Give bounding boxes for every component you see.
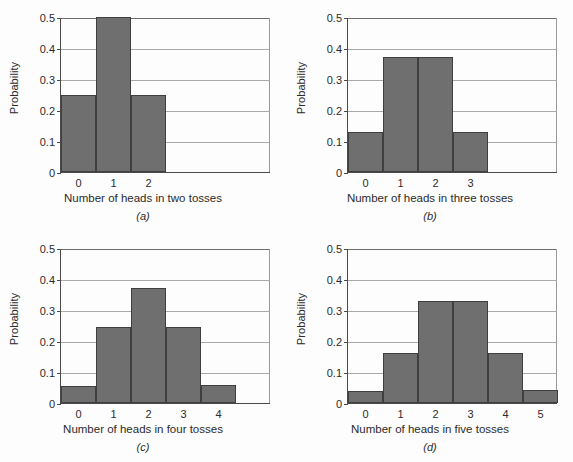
x-axis-label: Number of heads in five tosses	[287, 423, 573, 435]
bar-series	[348, 249, 557, 403]
y-axis-label-text: Probability	[8, 292, 20, 344]
panel-letter: (a)	[0, 210, 286, 222]
panel-letter: (c)	[0, 441, 286, 453]
bar	[96, 17, 131, 172]
bar-series	[61, 18, 270, 172]
bar	[348, 132, 383, 172]
y-tick-label: 0.4	[327, 274, 342, 286]
x-axis-label: Number of heads in three tosses	[287, 192, 573, 204]
bar	[131, 95, 166, 173]
x-tick-label: 5	[537, 408, 543, 420]
bar	[96, 327, 131, 403]
panel-c: Probability00.10.20.30.40.501234Number o…	[0, 231, 286, 462]
x-tick-label: 2	[145, 408, 151, 420]
y-tick-label: 0.3	[40, 305, 55, 317]
bar	[523, 390, 558, 403]
x-tick-label: 1	[110, 177, 116, 189]
plot-area: 00.10.20.30.40.501234	[60, 249, 270, 404]
y-tick-label: 0.4	[40, 43, 55, 55]
y-axis-label: Probability	[6, 231, 22, 406]
panel-a: Probability00.10.20.30.40.5012Number of …	[0, 0, 286, 231]
y-axis-label-text: Probability	[8, 61, 20, 113]
plot-area: 00.10.20.30.40.5012	[60, 18, 270, 173]
x-tick-label: 4	[502, 408, 508, 420]
y-tick-label: 0.5	[40, 12, 55, 24]
x-tick-label: 3	[467, 408, 473, 420]
y-tick-label: 0	[336, 167, 342, 179]
x-tick-label: 1	[397, 177, 403, 189]
y-tick-label: 0.1	[327, 136, 342, 148]
bar	[348, 391, 383, 403]
bar	[131, 288, 166, 403]
y-tick-label: 0.2	[40, 105, 55, 117]
binomial-histogram-figure: Probability00.10.20.30.40.5012Number of …	[0, 0, 573, 462]
x-tick-label: 1	[110, 408, 116, 420]
y-tick-label: 0.2	[40, 336, 55, 348]
x-tick-label: 3	[180, 408, 186, 420]
y-tick-label: 0.4	[327, 43, 342, 55]
bar	[61, 95, 96, 173]
x-tick-label: 1	[397, 408, 403, 420]
panel-d: Probability00.10.20.30.40.5012345Number …	[287, 231, 573, 462]
y-axis-label-text: Probability	[295, 61, 307, 113]
y-tick-label: 0.1	[40, 136, 55, 148]
bar	[383, 353, 418, 403]
bar-series	[348, 18, 557, 172]
bar	[166, 327, 201, 403]
y-tick-label: 0	[336, 398, 342, 410]
y-tick-label: 0.3	[40, 74, 55, 86]
x-tick-label: 0	[362, 177, 368, 189]
bar	[61, 386, 96, 403]
x-tick-label: 2	[432, 408, 438, 420]
plot-area: 00.10.20.30.40.5012345	[347, 249, 557, 404]
plot-area: 00.10.20.30.40.50123	[347, 18, 557, 173]
y-tick-label: 0.2	[327, 105, 342, 117]
y-tick-label: 0	[49, 398, 55, 410]
y-tick-mark	[57, 404, 61, 405]
y-axis-label: Probability	[6, 0, 22, 175]
y-tick-label: 0.5	[327, 12, 342, 24]
y-tick-label: 0.1	[40, 367, 55, 379]
bar	[201, 385, 236, 403]
bar-series	[61, 249, 270, 403]
y-tick-label: 0.5	[327, 243, 342, 255]
y-tick-label: 0.3	[327, 305, 342, 317]
y-tick-mark	[344, 173, 348, 174]
y-tick-label: 0.3	[327, 74, 342, 86]
x-axis-label: Number of heads in two tosses	[0, 192, 286, 204]
y-tick-mark	[344, 404, 348, 405]
panel-letter: (d)	[287, 441, 573, 453]
y-tick-mark	[57, 173, 61, 174]
y-axis-label-text: Probability	[295, 292, 307, 344]
panel-letter: (b)	[287, 210, 573, 222]
y-tick-label: 0	[49, 167, 55, 179]
y-tick-label: 0.5	[40, 243, 55, 255]
y-tick-label: 0.1	[327, 367, 342, 379]
bar	[453, 132, 488, 172]
x-tick-label: 2	[432, 177, 438, 189]
y-tick-label: 0.2	[327, 336, 342, 348]
y-axis-label: Probability	[293, 0, 309, 175]
x-tick-label: 4	[215, 408, 221, 420]
bar	[488, 353, 523, 403]
x-tick-label: 2	[145, 177, 151, 189]
bar	[453, 301, 488, 403]
bar	[418, 57, 453, 172]
x-tick-label: 3	[467, 177, 473, 189]
y-axis-label: Probability	[293, 231, 309, 406]
x-axis-label: Number of heads in four tosses	[0, 423, 286, 435]
bar	[418, 301, 453, 403]
x-tick-label: 0	[362, 408, 368, 420]
x-tick-label: 0	[75, 408, 81, 420]
y-tick-label: 0.4	[40, 274, 55, 286]
bar	[383, 57, 418, 172]
x-tick-label: 0	[75, 177, 81, 189]
panel-b: Probability00.10.20.30.40.50123Number of…	[287, 0, 573, 231]
